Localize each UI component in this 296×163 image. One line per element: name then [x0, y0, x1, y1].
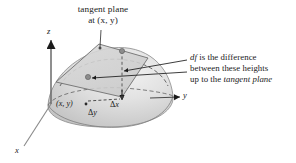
df-annotation-line3-italic: tangent plane	[223, 74, 272, 84]
base-point-dot	[120, 95, 123, 98]
df-annotation-line2: between these heights	[190, 63, 294, 74]
df-symbol: df	[190, 52, 197, 62]
delta-x-label: Δx	[110, 100, 119, 109]
figure-title-line2: at (x, y)	[57, 15, 149, 26]
df-annotation-line3-prefix: up to the	[190, 74, 223, 84]
figure-title-line1: tangent plane	[57, 4, 149, 15]
x-axis-label: x	[15, 145, 19, 155]
plane-point-dot	[119, 48, 124, 53]
title-leader-dot	[99, 47, 102, 50]
df-annotation-line1: df is the difference	[190, 52, 294, 63]
delta-x-var: x	[115, 100, 119, 109]
df-annotation: df is the difference between these heigh…	[190, 52, 294, 84]
df-annotation-line1-rest: is the difference	[197, 52, 257, 62]
y-axis-label: y	[183, 90, 187, 100]
figure-title: tangent plane at (x, y)	[57, 4, 149, 25]
xy-point-label: (x, y)	[56, 99, 73, 108]
xy-point-dot	[85, 103, 88, 106]
figure-canvas: tangent plane at (x, y) df is the differ…	[0, 0, 296, 163]
x-axis	[24, 104, 51, 146]
z-axis-label: z	[47, 26, 50, 36]
df-annotation-line3: up to the tangent plane	[190, 74, 294, 85]
surface-point-dot	[85, 74, 90, 79]
delta-y-label: Δy	[88, 108, 97, 117]
delta-y-var: y	[93, 108, 97, 117]
